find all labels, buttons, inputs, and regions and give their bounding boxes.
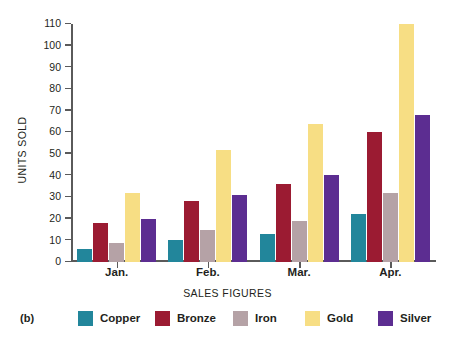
legend-label-bronze: Bronze <box>177 312 216 324</box>
bar-bronze-feb <box>184 201 199 262</box>
bar-iron-jan <box>109 243 124 262</box>
y-axis-title-text: UNITS SOLD <box>15 116 27 183</box>
x-category-label: Feb. <box>196 266 220 278</box>
y-tick-label: 30 <box>49 190 61 202</box>
bar-group <box>77 24 156 262</box>
bar-silver-mar <box>324 175 339 262</box>
x-axis-title: SALES FIGURES <box>0 287 455 299</box>
y-tick: 100 <box>65 44 71 45</box>
legend-item-bronze[interactable]: Bronze <box>155 308 216 328</box>
bar-silver-apr <box>415 115 430 262</box>
y-tick-label: 90 <box>49 61 61 73</box>
bar-silver-jan <box>141 219 156 262</box>
legend-item-copper[interactable]: Copper <box>78 308 140 328</box>
bar-silver-feb <box>232 195 247 262</box>
legend-swatch-silver <box>378 311 393 326</box>
y-tick: 0 <box>65 261 71 262</box>
chart-legend: CopperBronzeIronGoldSilver <box>70 308 445 330</box>
bar-copper-apr <box>351 214 366 262</box>
bar-gold-jan <box>125 193 140 262</box>
y-tick-label: 50 <box>49 147 61 159</box>
x-axis-title-text: SALES FIGURES <box>183 287 272 299</box>
bar-group <box>168 24 247 262</box>
bar-copper-feb <box>168 240 183 262</box>
y-axis-title: UNITS SOLD <box>10 95 32 205</box>
y-tick: 40 <box>65 174 71 175</box>
bar-copper-mar <box>260 234 275 262</box>
y-tick-label: 10 <box>49 234 61 246</box>
x-category-label: Apr. <box>379 266 401 278</box>
legend-item-silver[interactable]: Silver <box>378 308 431 328</box>
bar-bronze-apr <box>367 132 382 262</box>
y-tick: 90 <box>65 66 71 67</box>
legend-swatch-iron <box>233 311 248 326</box>
y-tick: 60 <box>65 131 71 132</box>
y-tick-label: 80 <box>49 82 61 94</box>
legend-swatch-bronze <box>155 311 170 326</box>
y-tick: 110 <box>65 23 71 24</box>
legend-label-copper: Copper <box>100 312 140 324</box>
y-tick: 80 <box>65 88 71 89</box>
y-tick-label: 60 <box>49 125 61 137</box>
y-tick-label: 40 <box>49 169 61 181</box>
bar-bronze-jan <box>93 223 108 262</box>
y-tick-label: 70 <box>49 104 61 116</box>
bar-group <box>351 24 430 262</box>
x-category-label: Jan. <box>105 266 128 278</box>
y-axis-line <box>71 24 73 262</box>
bar-gold-apr <box>399 24 414 262</box>
plot-area: 0102030405060708090100110 <box>71 24 436 262</box>
legend-label-silver: Silver <box>400 312 431 324</box>
legend-item-gold[interactable]: Gold <box>305 308 353 328</box>
y-tick-label: 0 <box>55 255 61 267</box>
legend-swatch-copper <box>78 311 93 326</box>
x-category-label: Mar. <box>288 266 311 278</box>
y-tick: 30 <box>65 196 71 197</box>
y-tick: 70 <box>65 109 71 110</box>
bar-chart-figure: UNITS SOLD 0102030405060708090100110 Jan… <box>0 0 455 343</box>
bar-gold-feb <box>216 150 231 263</box>
legend-item-iron[interactable]: Iron <box>233 308 277 328</box>
legend-label-gold: Gold <box>327 312 353 324</box>
y-tick: 50 <box>65 152 71 153</box>
bar-iron-mar <box>292 221 307 262</box>
bar-iron-apr <box>383 193 398 262</box>
bar-group <box>260 24 339 262</box>
y-tick-label: 110 <box>44 17 61 29</box>
bar-iron-feb <box>200 230 215 262</box>
y-tick: 20 <box>65 217 71 218</box>
bar-gold-mar <box>308 124 323 262</box>
y-tick-label: 100 <box>43 39 61 51</box>
panel-label: (b) <box>20 312 34 324</box>
y-tick: 10 <box>65 239 71 240</box>
y-tick-label: 20 <box>49 212 61 224</box>
legend-swatch-gold <box>305 311 320 326</box>
bar-copper-jan <box>77 249 92 262</box>
bar-bronze-mar <box>276 184 291 262</box>
legend-label-iron: Iron <box>255 312 277 324</box>
